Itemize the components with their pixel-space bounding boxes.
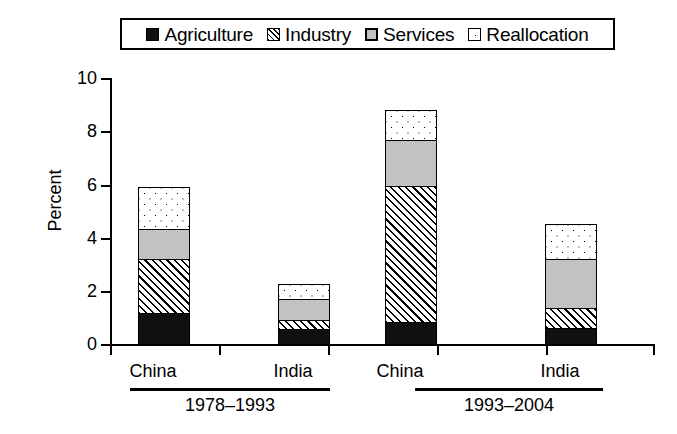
bar-segment-industry [138, 259, 190, 315]
legend-swatch-industry-icon [267, 28, 280, 41]
legend-label-services: Services [383, 25, 454, 44]
y-tick-6 [101, 185, 110, 187]
legend-item-services: Services [365, 25, 454, 44]
group-label-1978-1993: 1978–1993 [130, 396, 330, 414]
y-tick-10 [101, 78, 110, 80]
chart-legend: Agriculture Industry Services Reallocati… [120, 18, 615, 50]
legend-label-reallocation: Reallocation [486, 25, 588, 44]
stacked-bar-chart: Agriculture Industry Services Reallocati… [0, 0, 677, 434]
bar-segment-services [545, 259, 597, 310]
bar-segment-agriculture [278, 329, 330, 345]
bar-segment-industry [385, 186, 437, 324]
bar-segment-agriculture [545, 328, 597, 345]
x-label-india-1: India [238, 362, 348, 380]
stacked-bar-india-1978-1993 [278, 280, 330, 345]
x-tick-4 [546, 346, 548, 355]
legend-label-industry: Industry [285, 25, 351, 44]
y-tick-label-10: 10 [57, 69, 97, 87]
group-label-1993-2004: 1993–2004 [415, 396, 603, 414]
x-label-china-2: China [345, 362, 455, 380]
y-tick-label-4: 4 [57, 229, 97, 247]
x-tick-3 [437, 346, 439, 355]
stacked-bar-india-1993-2004 [545, 220, 597, 345]
bar-segment-services [278, 299, 330, 322]
y-tick-label-8-wrap: 8 [52, 122, 97, 140]
x-label-china-1: China [98, 362, 208, 380]
bar-segment-industry [545, 308, 597, 329]
legend-swatch-agriculture-icon [146, 28, 159, 41]
x-tick-end [653, 346, 655, 355]
bar-segment-reallocation [545, 224, 597, 260]
legend-item-reallocation: Reallocation [468, 25, 588, 44]
plot-area [112, 78, 655, 345]
bar-segment-reallocation [138, 187, 190, 231]
y-tick-label-2-wrap: 2 [52, 282, 97, 300]
y-tick-4 [101, 238, 110, 240]
stacked-bar-china-1993-2004 [385, 105, 437, 345]
y-tick-label-0-wrap: 0 [52, 335, 97, 353]
x-tick-2 [328, 346, 330, 355]
y-tick-label-4-wrap: 4 [52, 229, 97, 247]
legend-swatch-services-icon [365, 28, 378, 41]
legend-label-agriculture: Agriculture [164, 25, 253, 44]
y-tick-label-6: 6 [57, 176, 97, 194]
bar-segment-services [385, 140, 437, 188]
group-underline-1978-1993 [130, 388, 330, 391]
y-tick-label-10-wrap: 10 [52, 69, 97, 87]
bar-segment-agriculture [138, 313, 190, 345]
x-tick-1 [219, 346, 221, 355]
y-tick-label-8: 8 [57, 122, 97, 140]
x-label-india-2: India [505, 362, 615, 380]
stacked-bar-china-1978-1993 [138, 182, 190, 345]
bar-segment-reallocation [385, 110, 437, 142]
y-tick-8 [101, 131, 110, 133]
x-tick-start [110, 346, 112, 355]
y-tick-label-2: 2 [57, 282, 97, 300]
bar-segment-services [138, 229, 190, 260]
y-tick-label-0: 0 [57, 335, 97, 353]
legend-item-agriculture: Agriculture [146, 25, 253, 44]
legend-item-industry: Industry [267, 25, 351, 44]
legend-swatch-reallocation-icon [468, 28, 481, 41]
group-underline-1993-2004 [415, 388, 603, 391]
y-tick-2 [101, 291, 110, 293]
y-tick-label-6-wrap: 6 [52, 176, 97, 194]
bar-segment-agriculture [385, 322, 437, 345]
y-tick-0 [101, 344, 110, 346]
